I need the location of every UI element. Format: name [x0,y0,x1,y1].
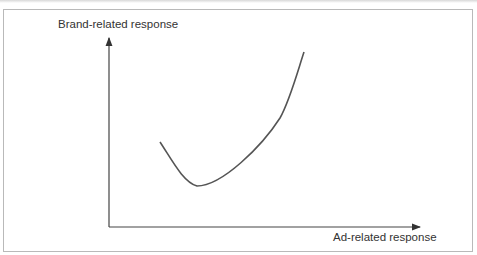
x-axis-label: Ad-related response [333,231,437,243]
diagram-canvas [0,0,477,255]
y-axis-label: Brand-related response [58,18,178,30]
response-curve [160,52,304,186]
